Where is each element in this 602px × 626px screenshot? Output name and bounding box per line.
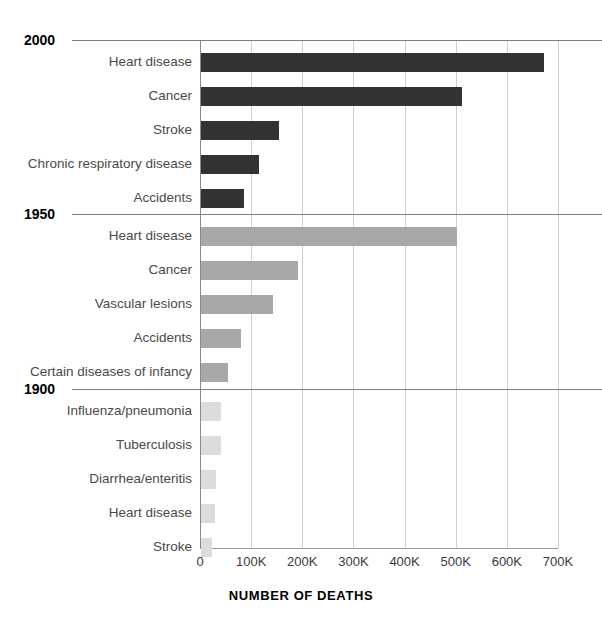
bar-label: Cancer [0,79,192,113]
bar-row: Cancer [0,79,602,113]
bar[interactable] [201,155,259,174]
bar-row: Stroke [0,113,602,147]
bar-row: Chronic respiratory disease [0,147,602,181]
bar-label: Heart disease [0,45,192,79]
bar-row: Influenza/pneumonia [0,394,602,428]
bar[interactable] [201,227,457,246]
bar-label: Stroke [0,530,192,564]
bar[interactable] [201,436,221,455]
bar-label: Heart disease [0,219,192,253]
bar-label: Influenza/pneumonia [0,394,192,428]
bar[interactable] [201,402,221,421]
x-axis-title: NUMBER OF DEATHS [0,588,602,603]
bar-row: Tuberculosis [0,428,602,462]
bar-label: Chronic respiratory disease [0,147,192,181]
bar-label: Tuberculosis [0,428,192,462]
x-tick-label-700K: 700K [543,554,573,569]
x-tick-label-600K: 600K [492,554,522,569]
bar-label: Diarrhea/enteritis [0,462,192,496]
section-divider-1950 [72,214,602,215]
bar[interactable] [201,470,216,489]
bar-row: Accidents [0,181,602,215]
x-tick-label-100K: 100K [236,554,266,569]
bar[interactable] [201,121,279,140]
bar-row: Vascular lesions [0,287,602,321]
bar-label: Cancer [0,253,192,287]
bar-row: Heart disease [0,45,602,79]
deaths-bar-chart: 2000Heart diseaseCancerStrokeChronic res… [0,0,602,626]
x-tick-label-300K: 300K [338,554,368,569]
x-tick-label-200K: 200K [287,554,317,569]
bar-row: Diarrhea/enteritis [0,462,602,496]
bar-label: Vascular lesions [0,287,192,321]
bar-label: Stroke [0,113,192,147]
bar[interactable] [201,189,244,208]
bar[interactable] [201,363,228,382]
bar[interactable] [201,329,241,348]
bar-row: Certain diseases of infancy [0,355,602,389]
bar[interactable] [201,261,298,280]
bar[interactable] [201,87,462,106]
bar-label: Heart disease [0,496,192,530]
bar[interactable] [201,504,215,523]
bar-row: Heart disease [0,496,602,530]
bar-label: Accidents [0,321,192,355]
bar-row: Accidents [0,321,602,355]
x-tick-label-400K: 400K [389,554,419,569]
bar[interactable] [201,295,273,314]
bar[interactable] [201,53,544,72]
section-divider-2000 [72,40,602,41]
bar-row: Cancer [0,253,602,287]
x-tick-label-500K: 500K [441,554,471,569]
x-tick-label-0: 0 [196,554,203,569]
bar-row: Heart disease [0,219,602,253]
section-divider-1900 [72,389,602,390]
